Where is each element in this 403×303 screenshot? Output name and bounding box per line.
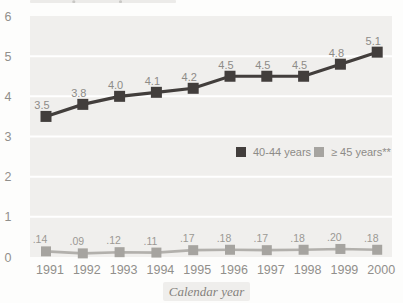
data-point-marker — [262, 245, 272, 255]
x-tick-label: 1997 — [257, 263, 285, 277]
data-point-label: 4.1 — [145, 75, 160, 87]
data-point-label: .14 — [33, 233, 48, 245]
data-point-label: 4.2 — [182, 71, 197, 83]
y-tick-label: 1 — [5, 210, 12, 224]
data-point-label: .09 — [69, 235, 84, 247]
y-tick-label: 4 — [5, 90, 12, 104]
y-tick-label: 2 — [5, 170, 12, 184]
data-point-marker — [115, 247, 125, 257]
data-point-marker — [335, 244, 345, 254]
data-point-marker — [114, 91, 125, 102]
data-point-marker — [261, 71, 272, 82]
legend-item-40-44: 40-44 years — [236, 145, 311, 159]
data-point-label: .18 — [217, 232, 232, 244]
data-point-label: 5.1 — [366, 35, 381, 47]
x-axis-title-box: Calendar year — [163, 282, 250, 301]
data-point-label: 4.0 — [108, 79, 123, 91]
x-tick-label: 1995 — [183, 263, 211, 277]
data-point-label: 4.5 — [292, 59, 307, 71]
data-point-label: .11 — [143, 235, 157, 247]
data-point-label: 4.5 — [218, 59, 233, 71]
legend-label-45-plus: ≥ 45 years** — [331, 146, 391, 158]
x-axis-title: Calendar year — [169, 284, 244, 300]
legend-item-45-plus: ≥ 45 years** — [314, 145, 391, 159]
data-point-marker — [335, 59, 346, 70]
x-tick-label: 1993 — [110, 263, 138, 277]
figure-birth-rates-chart: 0123456199119921993199419951996199719981… — [0, 0, 403, 303]
data-point-label: 4.8 — [329, 47, 344, 59]
data-point-marker — [151, 248, 161, 258]
data-point-marker — [188, 245, 198, 255]
data-point-label: 3.5 — [34, 99, 49, 111]
data-point-marker — [372, 245, 382, 255]
x-tick-label: 1998 — [294, 263, 322, 277]
data-point-label: .17 — [180, 232, 195, 244]
data-point-marker — [41, 111, 52, 122]
data-point-marker — [225, 71, 236, 82]
data-point-marker — [299, 245, 309, 255]
data-point-marker — [188, 83, 199, 94]
data-point-label: .18 — [364, 232, 379, 244]
legend-label-40-44: 40-44 years — [253, 146, 311, 158]
y-tick-label: 5 — [5, 50, 12, 64]
data-point-label: 4.5 — [255, 59, 270, 71]
x-tick-label: 1996 — [220, 263, 248, 277]
legend-swatch-45-plus — [314, 147, 324, 157]
data-point-marker — [41, 246, 51, 256]
data-point-marker — [151, 87, 162, 98]
data-point-label: 3.8 — [71, 87, 86, 99]
data-point-marker — [78, 248, 88, 258]
x-tick-label: 1994 — [146, 263, 174, 277]
x-tick-label: 1999 — [330, 263, 358, 277]
data-point-label: .18 — [290, 232, 305, 244]
x-tick-label: 1992 — [73, 263, 101, 277]
data-point-marker — [77, 99, 88, 110]
data-point-marker — [225, 245, 235, 255]
legend-swatch-40-44 — [236, 147, 246, 157]
x-tick-label: 1991 — [36, 263, 64, 277]
y-tick-label: 0 — [5, 251, 12, 265]
data-point-label: .12 — [106, 234, 121, 246]
data-point-marker — [298, 71, 309, 82]
x-tick-label: 2000 — [367, 263, 395, 277]
data-point-label: .20 — [327, 231, 342, 243]
y-tick-label: 3 — [5, 130, 12, 144]
data-point-marker — [372, 47, 383, 58]
data-point-label: .17 — [253, 232, 268, 244]
y-tick-label: 6 — [5, 10, 12, 24]
